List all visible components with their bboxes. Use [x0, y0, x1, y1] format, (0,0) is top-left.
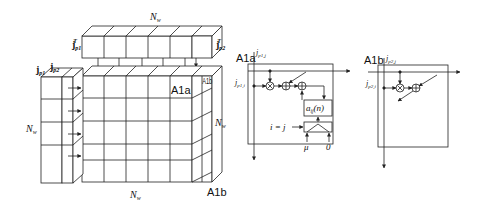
jp2-label: jp2: [49, 61, 59, 73]
a1a-cell-label: A1a: [171, 84, 191, 96]
a1a-title: A1a: [236, 52, 256, 64]
left-nw-label: Nw: [25, 123, 37, 135]
cell-a1b-box: [378, 65, 448, 147]
array-3d: [41, 26, 222, 183]
a1b-cell-label: A1b: [202, 77, 212, 86]
a1b-title: A1b: [364, 54, 384, 66]
mux-input-zero: 0: [326, 142, 331, 152]
a1b-top-input: jp2,j: [385, 54, 396, 65]
jp2-transpose-label: jp2T: [215, 38, 225, 51]
mux-input-mu: μ: [303, 142, 309, 152]
condition-label: i = j: [270, 122, 286, 132]
bottom-nw-label: Nw: [129, 189, 141, 201]
register-label: aij(n): [306, 103, 324, 114]
a1b-bottom-label: A1b: [207, 186, 227, 198]
systolic-array-diagram: Nw jp1T jp2T jp1 jp2 Nw Nw Nw A1a A1b A1…: [0, 0, 484, 210]
top-nw-label: Nw: [149, 11, 161, 23]
a1a-left-input: jp1,i: [234, 78, 245, 89]
top-vector-block: [82, 26, 222, 58]
left-vector-block: [41, 68, 83, 183]
a1a-top-input: jp1,j: [255, 48, 266, 59]
jp1-label: jp1: [35, 64, 45, 76]
a1b-left-input: jp2,i: [365, 79, 376, 90]
cell-a1a-detail: [248, 52, 350, 160]
cell-a1b-detail: [368, 58, 460, 168]
mux-box: [304, 122, 332, 132]
main-array: [82, 66, 222, 182]
jp1-transpose-label: jp1T: [71, 38, 81, 51]
right-nw-label: Nw: [214, 117, 226, 129]
